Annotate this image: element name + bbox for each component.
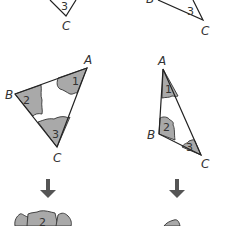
right-down-arrow-icon	[169, 179, 185, 198]
angle-1-label: 1	[72, 75, 79, 88]
left-arranged-angles: 2	[15, 211, 72, 226]
vertex-b-label: B	[146, 0, 154, 6]
top-left-triangle-fragment: 3 C	[50, 0, 76, 33]
right-arranged-angles	[164, 220, 180, 226]
angle-2-label: 2	[39, 216, 46, 226]
angle-sum-diagram: 3 C B 3 C 1 2 3 A B C 1 2 3 A B	[0, 0, 232, 226]
triangle-edges	[158, 0, 203, 20]
left-triangle: 1 2 3 A B C	[5, 53, 92, 165]
vertex-b-label: B	[147, 128, 155, 142]
vertex-a-label: A	[83, 53, 92, 67]
angle-3-label: 3	[61, 0, 68, 13]
top-right-triangle-fragment: B 3 C	[146, 0, 210, 38]
vertex-a-label: A	[157, 54, 166, 68]
angle-piece	[164, 220, 180, 226]
angle-3-piece	[56, 213, 71, 226]
angle-1-label: 1	[165, 83, 172, 96]
left-down-arrow-icon	[40, 179, 56, 198]
angle-3-label: 3	[187, 5, 194, 18]
angle-2-label: 2	[163, 121, 170, 134]
vertex-c-label: C	[62, 19, 71, 33]
vertex-c-label: C	[53, 151, 62, 165]
vertex-c-label: C	[201, 157, 210, 171]
angle-3-label: 3	[52, 128, 59, 141]
angle-2-label: 2	[23, 94, 30, 107]
vertex-c-label: C	[201, 24, 210, 38]
vertex-b-label: B	[5, 88, 13, 102]
angle-3-label: 3	[186, 141, 193, 154]
right-triangle: 1 2 3 A B C	[147, 54, 210, 171]
